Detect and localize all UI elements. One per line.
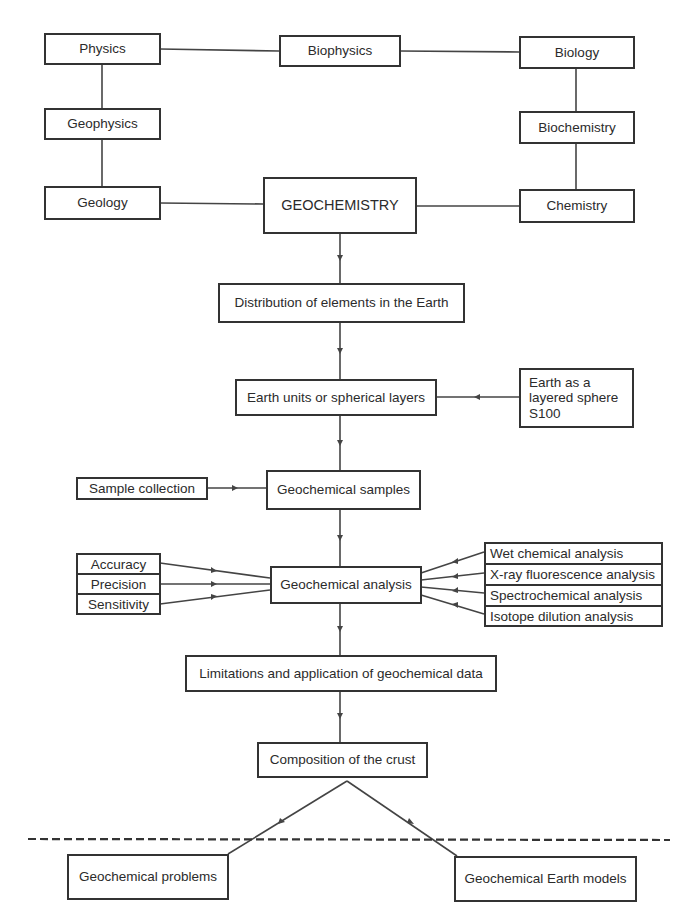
node-geophysics: Geophysics (44, 108, 161, 140)
node-geochemical-earth-models: Geochemical Earth models (454, 856, 637, 902)
geochemistry-flowchart: Physics Biophysics Biology Geophysics Ge… (0, 0, 700, 914)
node-geochemical-problems: Geochemical problems (67, 854, 229, 900)
criterion-sensitivity: Sensitivity (78, 595, 159, 613)
method-isotope-dilution: Isotope dilution analysis (486, 607, 661, 625)
node-biophysics: Biophysics (279, 35, 401, 67)
node-biochemistry: Biochemistry (519, 111, 635, 144)
node-geochemical-samples: Geochemical samples (266, 470, 421, 510)
analysis-methods-stack: Wet chemical analysis X-ray fluorescence… (484, 542, 663, 627)
node-limitations: Limitations and application of geochemic… (185, 655, 497, 692)
layered-sphere-line-1: Earth as a (529, 375, 591, 391)
node-physics: Physics (44, 33, 161, 65)
node-sample-collection: Sample collection (76, 477, 208, 500)
quality-criteria-stack: Accuracy Precision Sensitivity (76, 553, 161, 615)
method-xrf: X-ray fluorescence analysis (486, 565, 661, 586)
node-biology: Biology (519, 36, 635, 69)
node-layered-sphere: Earth as a layered sphere S100 (519, 368, 634, 428)
node-earth-units: Earth units or spherical layers (235, 379, 437, 416)
method-spectrochemical: Spectrochemical analysis (486, 586, 661, 607)
method-wet-chemical: Wet chemical analysis (486, 544, 661, 565)
dashed-divider (28, 839, 670, 840)
node-distribution: Distribution of elements in the Earth (218, 283, 465, 323)
node-geochemistry: GEOCHEMISTRY (263, 177, 417, 234)
criterion-precision: Precision (78, 575, 159, 595)
node-composition-crust: Composition of the crust (257, 742, 428, 778)
criterion-accuracy: Accuracy (78, 555, 159, 575)
layered-sphere-line-3: S100 (529, 406, 561, 422)
node-geochemical-analysis: Geochemical analysis (270, 566, 422, 604)
node-geology: Geology (44, 186, 161, 220)
node-chemistry: Chemistry (519, 189, 635, 223)
layered-sphere-line-2: layered sphere (529, 390, 618, 406)
